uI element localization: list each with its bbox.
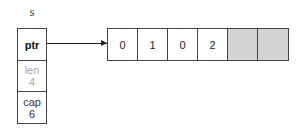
array-cell-1: 1: [138, 29, 168, 60]
underlying-array: 0 1 0 2: [107, 28, 289, 61]
field-ptr: ptr: [18, 29, 46, 61]
array-cell-2: 0: [168, 29, 198, 60]
slice-header: ptr len 4 cap 6: [17, 28, 47, 124]
field-cap: cap 6: [18, 92, 46, 123]
field-len-value: 4: [29, 76, 35, 88]
field-cap-label: cap: [23, 96, 41, 108]
field-cap-value: 6: [29, 108, 35, 120]
array-cell-3: 2: [198, 29, 228, 60]
field-len: len 4: [18, 61, 46, 92]
array-cell-5-unused: [258, 29, 288, 60]
array-cell-0: 0: [108, 29, 138, 60]
field-len-label: len: [25, 64, 40, 76]
pointer-arrow-line: [47, 43, 107, 44]
variable-name: s: [17, 4, 47, 20]
field-ptr-label: ptr: [25, 39, 40, 51]
array-cell-4-unused: [228, 29, 258, 60]
